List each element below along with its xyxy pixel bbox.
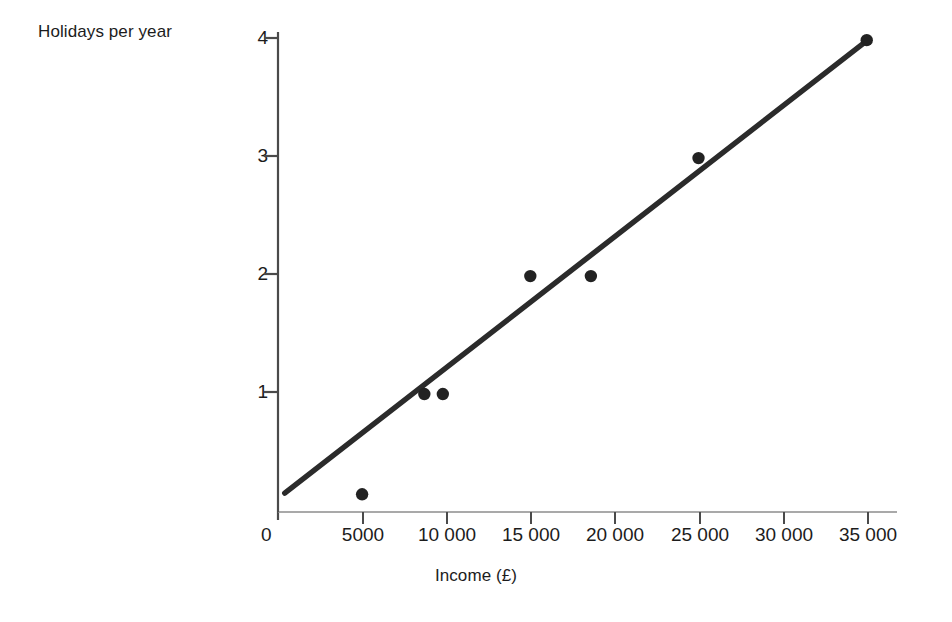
data-point-marker (692, 152, 704, 164)
data-series-layer (285, 34, 873, 501)
data-point-marker (418, 388, 430, 400)
data-point-marker (437, 388, 449, 400)
data-point-marker (585, 270, 597, 282)
data-point-marker (524, 270, 536, 282)
trend-line (285, 40, 868, 493)
y-axis-ticks (264, 38, 278, 392)
plot-area (0, 0, 952, 622)
data-point-marker (861, 34, 873, 46)
scatter-chart-figure: Holidays per year Income (£) 4 3 2 1 0 5… (0, 0, 952, 622)
data-point-marker (356, 488, 368, 500)
